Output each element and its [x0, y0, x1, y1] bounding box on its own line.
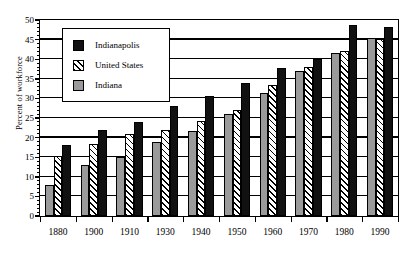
- y-tick-minor: [37, 70, 40, 71]
- y-tick-label: 35: [25, 74, 34, 83]
- bar-united-states-1970: [304, 67, 313, 216]
- y-tick-major: [35, 137, 40, 138]
- y-tick-minor: [37, 86, 40, 87]
- y-tick-minor: [37, 125, 40, 126]
- bar-indiana-1940: [188, 131, 197, 216]
- x-tick: [147, 216, 148, 222]
- x-tick-label: 1960: [263, 228, 282, 238]
- y-tick-minor: [37, 110, 40, 111]
- y-tick-label: 25: [25, 114, 34, 123]
- y-tick-major: [35, 196, 40, 197]
- y-tick-minor: [37, 43, 40, 44]
- y-tick-minor: [37, 63, 40, 64]
- y-tick-label: 0: [30, 212, 35, 221]
- y-axis-title: Percent of workforce: [14, 28, 24, 158]
- y-tick-minor: [37, 208, 40, 209]
- y-tick-minor: [37, 129, 40, 130]
- y-tick-minor: [37, 114, 40, 115]
- bar-indianapolis-1980: [349, 25, 358, 216]
- bar-united-states-1960: [268, 85, 277, 216]
- bar-united-states-1930: [161, 130, 170, 216]
- y-tick-major: [35, 157, 40, 158]
- x-tick: [40, 216, 41, 222]
- bar-united-states-1950: [233, 110, 242, 216]
- bar-indianapolis-1940: [205, 96, 214, 216]
- x-tick-label: 1880: [48, 228, 67, 238]
- legend-item-indianapolis: Indianapolis: [63, 35, 169, 55]
- legend-item-label: Indianapolis: [95, 40, 140, 50]
- bar-united-states-1910: [125, 134, 134, 216]
- y-tick-minor: [37, 67, 40, 68]
- legend-swatch-icon: [73, 80, 84, 91]
- bar-indianapolis-1930: [170, 106, 179, 216]
- legend-item-label: United States: [95, 60, 143, 70]
- bar-indiana-1970: [295, 71, 304, 216]
- bar-indiana-1900: [81, 165, 90, 216]
- y-tick-minor: [37, 184, 40, 185]
- y-tick-label: 20: [25, 133, 34, 142]
- y-tick-minor: [37, 145, 40, 146]
- x-tick-label: 1990: [371, 228, 390, 238]
- x-tick: [398, 216, 399, 222]
- y-tick-major: [35, 78, 40, 79]
- bar-indianapolis-1900: [98, 130, 107, 216]
- y-tick-minor: [37, 51, 40, 52]
- y-tick-label: 15: [25, 153, 34, 162]
- y-tick-minor: [37, 55, 40, 56]
- legend-item-indiana: Indiana: [63, 75, 169, 95]
- y-tick-label: 30: [25, 94, 34, 103]
- bar-indianapolis-1960: [277, 68, 286, 216]
- y-tick-minor: [37, 153, 40, 154]
- y-tick-minor: [37, 149, 40, 150]
- bar-united-states-1880: [54, 156, 63, 216]
- y-tick-label: 45: [25, 35, 34, 44]
- bar-indiana-1880: [45, 185, 54, 216]
- y-tick-minor: [37, 133, 40, 134]
- x-tick-label: 1940: [192, 228, 211, 238]
- x-tick-label: 1930: [156, 228, 175, 238]
- y-tick-minor: [37, 200, 40, 201]
- bar-indianapolis-1950: [241, 83, 250, 216]
- bar-chart: Percent of workforce 0510152025303540455…: [0, 0, 411, 256]
- y-tick-minor: [37, 102, 40, 103]
- x-tick: [362, 216, 363, 222]
- y-tick-minor: [37, 168, 40, 169]
- y-tick-label: 10: [25, 172, 34, 181]
- x-tick-label: 1980: [335, 228, 354, 238]
- y-tick-minor: [37, 23, 40, 24]
- y-tick-label: 5: [30, 192, 35, 201]
- legend-item-united-states: United States: [63, 55, 169, 75]
- y-tick-major: [35, 59, 40, 60]
- y-tick-minor: [37, 27, 40, 28]
- bar-indiana-1930: [152, 142, 161, 216]
- x-tick-label: 1950: [227, 228, 246, 238]
- legend-swatch-icon: [73, 40, 84, 51]
- bar-indianapolis-1910: [134, 122, 143, 216]
- y-tick-minor: [37, 31, 40, 32]
- x-tick: [326, 216, 327, 222]
- x-tick: [255, 216, 256, 222]
- y-tick-minor: [37, 47, 40, 48]
- y-tick-major: [35, 176, 40, 177]
- bar-indiana-1980: [331, 53, 340, 216]
- y-tick-minor: [37, 106, 40, 107]
- x-tick: [112, 216, 113, 222]
- y-tick-minor: [37, 204, 40, 205]
- y-tick-minor: [37, 35, 40, 36]
- y-tick-minor: [37, 74, 40, 75]
- x-tick-label: 1900: [84, 228, 103, 238]
- x-tick: [291, 216, 292, 222]
- y-tick-minor: [37, 161, 40, 162]
- x-tick-label: 1970: [299, 228, 318, 238]
- bar-indiana-1990: [367, 38, 376, 216]
- y-tick-minor: [37, 188, 40, 189]
- legend-swatch-icon: [73, 60, 84, 71]
- y-tick-minor: [37, 180, 40, 181]
- bar-indiana-1960: [260, 93, 269, 216]
- y-tick-minor: [37, 165, 40, 166]
- y-tick-minor: [37, 82, 40, 83]
- bar-united-states-1990: [376, 39, 385, 216]
- x-tick: [76, 216, 77, 222]
- bar-united-states-1940: [197, 121, 206, 216]
- y-tick-major: [35, 98, 40, 99]
